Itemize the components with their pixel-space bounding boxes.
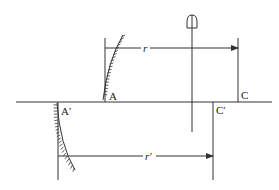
label-r-prime: r′ bbox=[145, 150, 152, 162]
label-a-prime: A′ bbox=[61, 105, 71, 117]
mirror-diagram: A r C bbox=[0, 0, 279, 190]
label-c-prime: C′ bbox=[216, 104, 226, 116]
label-c: C bbox=[241, 89, 248, 101]
label-a: A bbox=[109, 90, 117, 102]
label-r: r bbox=[143, 42, 148, 54]
